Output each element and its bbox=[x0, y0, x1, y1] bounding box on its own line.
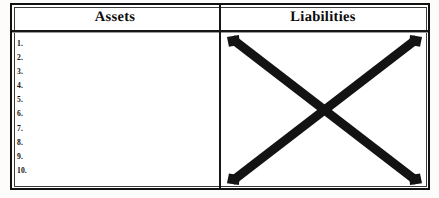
column-header-liabilities: Liabilities bbox=[218, 5, 428, 30]
list-item[interactable]: 4. bbox=[17, 79, 27, 93]
list-item[interactable]: 9. bbox=[17, 150, 27, 164]
scanned-page: Assets Liabilities 1. 2. 3. 4. 5. 6. 7. … bbox=[0, 0, 439, 198]
cross-out-x-icon bbox=[218, 32, 428, 188]
list-item[interactable]: 5. bbox=[17, 93, 27, 107]
list-item[interactable]: 7. bbox=[17, 122, 27, 136]
column-header-liabilities-label: Liabilities bbox=[290, 10, 355, 25]
assets-cell: 1. 2. 3. 4. 5. 6. 7. 8. 9. 10. bbox=[12, 32, 218, 188]
list-item[interactable]: 1. bbox=[17, 37, 27, 51]
table-body-row: 1. 2. 3. 4. 5. 6. 7. 8. 9. 10. bbox=[12, 32, 428, 188]
list-item[interactable]: 2. bbox=[17, 51, 27, 65]
list-item[interactable]: 3. bbox=[17, 65, 27, 79]
list-item[interactable]: 6. bbox=[17, 107, 27, 121]
list-item[interactable]: 10. bbox=[17, 164, 27, 178]
column-header-assets-label: Assets bbox=[95, 10, 135, 25]
liabilities-cell bbox=[218, 32, 428, 188]
assets-numbered-list: 1. 2. 3. 4. 5. 6. 7. 8. 9. 10. bbox=[17, 37, 27, 178]
column-header-assets: Assets bbox=[12, 5, 218, 30]
assets-liabilities-table: Assets Liabilities 1. 2. 3. 4. 5. 6. 7. … bbox=[10, 3, 430, 190]
list-item[interactable]: 8. bbox=[17, 136, 27, 150]
